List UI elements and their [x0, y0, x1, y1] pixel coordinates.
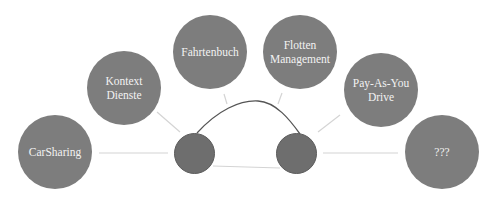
right-wheel-icon	[276, 133, 317, 174]
connector-flotten	[278, 93, 282, 104]
node-label: Kontext Dienste	[105, 74, 142, 103]
node-pay-as-you-drive: Pay-As-You Drive	[344, 53, 418, 127]
connector-kontext	[157, 112, 180, 132]
node-label: Pay-As-You Drive	[353, 76, 409, 105]
node-carsharing: CarSharing	[18, 115, 92, 189]
node-label: ???	[434, 145, 449, 159]
car-roof-outline	[197, 101, 300, 134]
connector-payd	[318, 115, 340, 132]
node-label: Flotten Management	[270, 38, 330, 67]
car-underbody-line	[213, 166, 280, 168]
node-label: CarSharing	[29, 145, 81, 159]
node-kontext-dienste: Kontext Dienste	[87, 51, 161, 125]
node-flotten-management: Flotten Management	[263, 15, 337, 89]
connector-fahrtenbuch	[224, 94, 227, 104]
node-label: Fahrtenbuch	[181, 45, 238, 59]
node-fahrtenbuch: Fahrtenbuch	[173, 15, 247, 89]
node-unknown: ???	[405, 115, 479, 189]
left-wheel-icon	[174, 133, 215, 174]
